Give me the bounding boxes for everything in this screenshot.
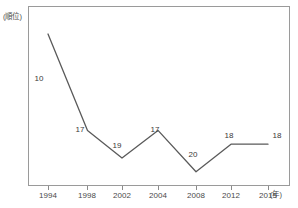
x-tick-label-2: 1998 (78, 191, 96, 200)
x-axis-tick-labels: 1994 1998 2002 2004 2008 2012 2015 (39, 191, 277, 200)
data-label-2004: 17 (151, 125, 160, 134)
line-chart: (順位) (年) 1994 1998 2002 2004 2008 2012 2… (0, 0, 298, 208)
x-tick-label-7: 2015 (259, 191, 277, 200)
data-label-1998: 17 (76, 125, 85, 134)
x-tick-label-5: 2008 (187, 191, 205, 200)
data-series-line (48, 34, 268, 172)
x-axis-ticks (49, 186, 269, 190)
x-tick-label-1: 1994 (39, 191, 57, 200)
chart-screenshot: (順位) (年) 1994 1998 2002 2004 2008 2012 2… (0, 0, 298, 208)
x-tick-label-4: 2004 (149, 191, 167, 200)
data-label-2015: 18 (273, 131, 282, 140)
y-axis-unit-label: (順位) (3, 11, 22, 21)
data-label-2008: 20 (189, 150, 198, 159)
plot-frame (29, 7, 290, 186)
data-label-2012: 18 (225, 131, 234, 140)
data-label-1994: 10 (35, 74, 44, 83)
data-label-2002: 19 (113, 141, 122, 150)
x-tick-label-6: 2012 (222, 191, 240, 200)
data-point-labels: 10 17 19 17 20 18 18 (35, 74, 282, 159)
x-tick-label-3: 2002 (113, 191, 131, 200)
